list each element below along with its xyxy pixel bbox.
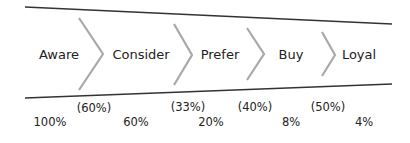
stage-label-consider: Consider (112, 47, 169, 62)
cumulative-rate-consider: 60% (123, 115, 149, 129)
conversion-rate-consider: (60%) (77, 101, 112, 115)
stage-label-aware: Aware (39, 47, 79, 62)
cumulative-rate-aware: 100% (34, 115, 67, 129)
stage-label-loyal: Loyal (342, 47, 376, 62)
cumulative-rate-prefer: 20% (198, 115, 224, 129)
conversion-rate-loyal: (50%) (311, 100, 346, 114)
stage-label-buy: Buy (279, 47, 304, 62)
stage-label-prefer: Prefer (201, 47, 240, 62)
stage-divider-chevron-1 (79, 18, 103, 90)
stage-divider-chevron-2 (174, 24, 192, 85)
cumulative-rate-buy: 8% (282, 115, 300, 129)
stage-divider-chevron-3 (247, 28, 264, 80)
conversion-rate-prefer: (33%) (171, 100, 206, 114)
cumulative-rate-loyal: 4% (355, 115, 373, 129)
stage-divider-chevron-4 (322, 32, 335, 76)
funnel-bottom-border (25, 84, 392, 98)
conversion-rate-buy: (40%) (238, 100, 273, 114)
